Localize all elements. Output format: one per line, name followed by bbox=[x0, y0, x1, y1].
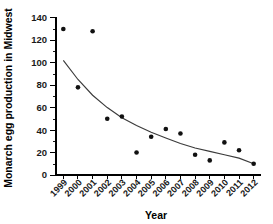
data-point-2009 bbox=[207, 158, 212, 163]
y-tick-label-0: 0 bbox=[42, 169, 47, 180]
data-point-2001 bbox=[90, 29, 95, 34]
y-tick-label-140: 140 bbox=[31, 12, 47, 23]
y-tick-label-60: 60 bbox=[36, 102, 47, 113]
data-point-2011 bbox=[237, 148, 242, 153]
data-point-2012 bbox=[251, 161, 256, 166]
data-point-2007 bbox=[178, 131, 183, 136]
data-point-1999 bbox=[61, 27, 66, 32]
data-point-2006 bbox=[164, 127, 169, 132]
data-point-2004 bbox=[134, 150, 139, 155]
data-points bbox=[61, 27, 256, 166]
data-point-2008 bbox=[193, 152, 198, 157]
scatter-plot: Monarch egg production in Midwest Year 1… bbox=[0, 0, 273, 224]
data-point-2003 bbox=[120, 114, 125, 119]
x-axis-title: Year bbox=[145, 209, 167, 221]
y-tick-label-80: 80 bbox=[36, 79, 47, 90]
y-tick-label-120: 120 bbox=[31, 34, 47, 45]
y-tick-label-40: 40 bbox=[36, 125, 47, 136]
x-axis-tick-labels: 1999200020012002200320042005200620072008… bbox=[48, 177, 260, 198]
data-point-2005 bbox=[149, 135, 154, 140]
data-point-2002 bbox=[105, 117, 110, 122]
y-tick-label-100: 100 bbox=[31, 57, 47, 68]
x-tick-label-2012: 2012 bbox=[238, 177, 259, 198]
y-tick-label-20: 20 bbox=[36, 147, 47, 158]
data-point-2000 bbox=[76, 85, 81, 90]
y-axis-ticks: 140 120 100 80 60 40 20 0 bbox=[31, 12, 56, 180]
trend-line bbox=[63, 60, 253, 163]
data-point-2010 bbox=[222, 140, 227, 145]
y-axis-title: Monarch egg production in Midwest bbox=[2, 8, 14, 188]
chart-figure: Monarch egg production in Midwest Year 1… bbox=[0, 0, 273, 224]
